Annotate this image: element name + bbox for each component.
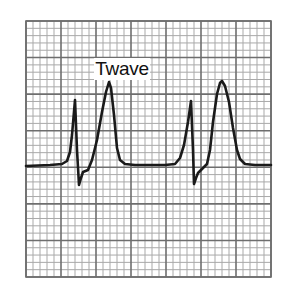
t-wave-label-text: Twave bbox=[95, 58, 148, 80]
ecg-chart bbox=[0, 0, 294, 295]
ecg-trace bbox=[26, 81, 271, 185]
t-wave-label: Twave bbox=[94, 58, 150, 80]
